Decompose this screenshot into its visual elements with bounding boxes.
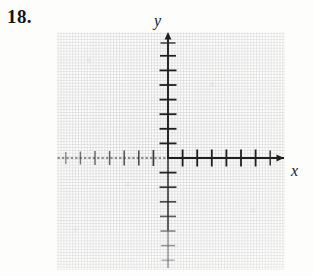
- x-axis-label: x: [291, 163, 298, 179]
- x-axis-arrowhead: [277, 155, 285, 162]
- problem-number: 18.: [7, 7, 32, 26]
- axes-svg: [57, 32, 285, 270]
- y-axis-arrowhead: [165, 32, 172, 39]
- y-axis-label: y: [154, 13, 161, 29]
- coordinate-grid: [57, 32, 285, 270]
- figure-root: 18.: [0, 0, 313, 276]
- x-axis-ticks-negative: [66, 150, 154, 166]
